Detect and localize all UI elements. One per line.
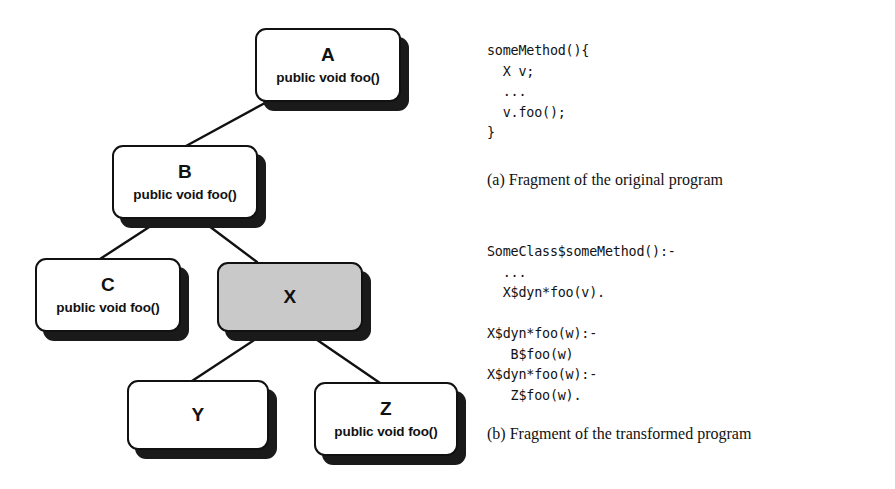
node-member: public void foo(): [334, 424, 437, 440]
node-name: C: [101, 275, 115, 295]
edge-a-b: [186, 103, 265, 146]
node-body: Z public void foo(): [314, 382, 458, 456]
node-name: A: [321, 45, 335, 65]
node-body: B public void foo(): [112, 145, 258, 219]
class-node-z[interactable]: Z public void foo(): [314, 382, 458, 456]
node-body: C public void foo(): [35, 258, 181, 332]
node-body: A public void foo(): [255, 28, 401, 102]
class-node-c[interactable]: C public void foo(): [35, 258, 181, 332]
class-node-x[interactable]: X: [217, 262, 363, 332]
figure-root: A public void foo() B public void foo() …: [0, 0, 895, 489]
node-body: X: [217, 262, 363, 332]
caption-b: (b) Fragment of the transformed program: [487, 424, 751, 444]
transformed-program-code: SomeClass$someMethod():- ... X$dyn*foo(v…: [487, 242, 676, 406]
node-name: Y: [192, 405, 205, 425]
class-node-y[interactable]: Y: [127, 380, 269, 450]
caption-a: (a) Fragment of the original program: [487, 170, 723, 190]
node-name: B: [178, 162, 192, 182]
node-body: Y: [127, 380, 269, 450]
class-node-b[interactable]: B public void foo(): [112, 145, 258, 219]
node-member: public void foo(): [276, 70, 379, 86]
node-member: public void foo(): [133, 187, 236, 203]
class-node-a[interactable]: A public void foo(): [255, 28, 401, 102]
code-column: someMethod(){ X v; ... v.foo(); } (a) Fr…: [487, 0, 895, 489]
original-program-code: someMethod(){ X v; ... v.foo(); }: [487, 41, 589, 144]
node-name: Z: [380, 399, 392, 419]
node-name: X: [284, 287, 297, 307]
node-member: public void foo(): [56, 300, 159, 316]
class-hierarchy-diagram: A public void foo() B public void foo() …: [0, 0, 470, 489]
